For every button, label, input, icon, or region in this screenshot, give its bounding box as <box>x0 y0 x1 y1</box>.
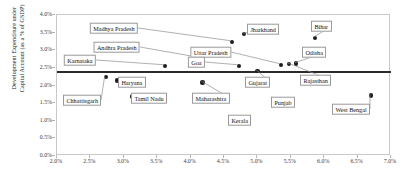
data-point <box>313 36 317 40</box>
y-axis-tick-mark <box>52 137 55 138</box>
y-axis-tick-mark <box>52 14 55 15</box>
reference-line <box>57 71 391 73</box>
data-point <box>237 64 241 68</box>
y-axis-tick-mark <box>52 120 55 121</box>
data-point <box>294 61 298 65</box>
plot-area <box>56 14 390 155</box>
y-axis-tick-mark <box>52 85 55 86</box>
y-axis-tick-label: 3.0% <box>26 46 52 52</box>
x-axis-tick-mark <box>256 155 257 158</box>
point-label: Goa <box>188 57 205 68</box>
y-axis-tick-label: 1.5% <box>26 99 52 105</box>
x-axis-tick-mark <box>390 155 391 158</box>
data-point <box>279 63 283 67</box>
y-axis-title: Development Expenditure underCapital Acc… <box>10 0 26 123</box>
x-axis-tick-mark <box>190 155 191 158</box>
y-axis-tick-mark <box>52 102 55 103</box>
data-point <box>255 69 259 73</box>
data-point <box>369 93 373 97</box>
data-point <box>104 75 108 79</box>
point-label: Kerala <box>228 115 251 126</box>
x-axis-tick-mark <box>89 155 90 158</box>
x-axis-tick-label: 6.5% <box>342 158 372 164</box>
x-axis-tick-label: 7.0% <box>375 158 405 164</box>
x-axis-tick-label: 4.5% <box>208 158 238 164</box>
x-axis-tick-mark <box>223 155 224 158</box>
x-axis-tick-label: 2.5% <box>74 158 104 164</box>
x-axis-tick-mark <box>56 155 57 158</box>
point-label: Andhra Pradesh <box>94 42 140 53</box>
x-axis-tick-label: 4.0% <box>175 158 205 164</box>
x-axis-tick-mark <box>156 155 157 158</box>
point-label: Punjab <box>271 97 295 108</box>
y-axis-tick-label: 1.0% <box>26 117 52 123</box>
y-axis-tick-label: 2.0% <box>26 82 52 88</box>
point-label: Uttar Pradesh <box>190 47 231 58</box>
point-label: Bihar <box>311 21 332 32</box>
y-axis-tick-mark <box>52 32 55 33</box>
y-axis-tick-mark <box>52 155 55 156</box>
x-axis-tick-label: 3.0% <box>108 158 138 164</box>
y-axis-title-line: Capital Account (as a % of GSDP) <box>18 0 26 123</box>
x-axis-tick-mark <box>123 155 124 158</box>
point-label: Karnataka <box>64 55 96 66</box>
data-point <box>200 80 204 84</box>
x-axis-tick-label: 5.5% <box>275 158 305 164</box>
data-point <box>163 64 167 68</box>
point-label: Haryana <box>118 77 146 88</box>
y-axis-title-line: Development Expenditure under <box>10 0 18 123</box>
x-axis-tick-mark <box>357 155 358 158</box>
x-axis-tick-label: 2.0% <box>41 158 71 164</box>
y-axis-tick-label: 2.5% <box>26 64 52 70</box>
y-axis-tick-label: 4.0% <box>26 11 52 17</box>
point-label: Odisha <box>302 47 326 58</box>
x-axis-tick-label: 6.0% <box>308 158 338 164</box>
y-axis-tick-label: 0.5% <box>26 134 52 140</box>
data-point <box>242 32 246 36</box>
x-axis-tick-label: 3.5% <box>141 158 171 164</box>
point-label: Chhattisgarh <box>63 95 101 106</box>
point-label: Rajasthan <box>300 75 331 86</box>
point-label: Tamil Nadu <box>131 93 167 104</box>
point-label: Jharkhand <box>247 24 279 35</box>
point-label: Gujarat <box>245 77 270 88</box>
data-point <box>230 40 234 44</box>
point-label: Maharashtra <box>192 93 230 104</box>
y-axis-tick-label: 3.5% <box>26 29 52 35</box>
point-label: West Bengal <box>332 104 370 115</box>
x-axis-tick-mark <box>290 155 291 158</box>
y-axis-tick-mark <box>52 67 55 68</box>
x-axis-tick-mark <box>323 155 324 158</box>
data-point <box>287 62 291 66</box>
x-axis-tick-label: 5.0% <box>241 158 271 164</box>
scatter-chart: Development Expenditure underCapital Acc… <box>0 0 408 181</box>
point-label: Madhya Pradesh <box>90 23 138 34</box>
y-axis-tick-mark <box>52 49 55 50</box>
